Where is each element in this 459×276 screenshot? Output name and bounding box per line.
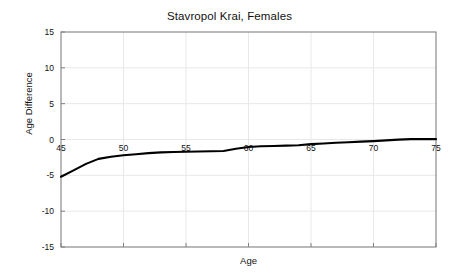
svg-text:-10: -10 bbox=[42, 206, 55, 216]
gridlines bbox=[61, 32, 436, 247]
svg-text:45: 45 bbox=[56, 143, 66, 153]
svg-text:5: 5 bbox=[49, 99, 54, 109]
x-axis-label: Age bbox=[61, 255, 436, 266]
svg-text:75: 75 bbox=[431, 143, 441, 153]
svg-text:-5: -5 bbox=[46, 170, 54, 180]
plot-area: 151050-5-10-1545505560657075 bbox=[0, 0, 459, 276]
y-axis-label: Age Difference bbox=[23, 58, 34, 150]
chart-figure: Stavropol Krai, Females 151050-5-10-1545… bbox=[0, 0, 459, 276]
svg-text:10: 10 bbox=[45, 63, 55, 73]
svg-text:15: 15 bbox=[45, 27, 55, 37]
svg-text:70: 70 bbox=[369, 143, 379, 153]
svg-text:0: 0 bbox=[49, 135, 54, 145]
svg-text:-15: -15 bbox=[42, 242, 55, 252]
svg-text:50: 50 bbox=[119, 143, 129, 153]
